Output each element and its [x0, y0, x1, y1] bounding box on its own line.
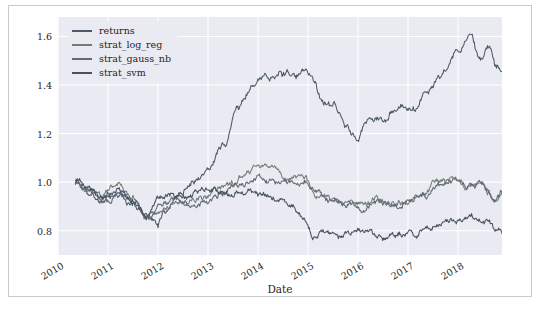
legend-item-label: strat_gauss_nb: [99, 52, 171, 66]
legend-swatch-icon: [72, 44, 92, 46]
legend-item-label: strat_svm: [99, 66, 146, 80]
legend-item-strat_svm: strat_svm: [72, 66, 171, 80]
legend-item-strat_log_reg: strat_log_reg: [72, 38, 171, 52]
chart-legend: returnsstrat_log_regstrat_gauss_nbstrat_…: [68, 21, 177, 83]
legend-item-label: returns: [99, 24, 135, 38]
x-axis-title: Date: [58, 283, 502, 295]
legend-item-returns: returns: [72, 24, 171, 38]
legend-item-label: strat_log_reg: [99, 38, 162, 52]
legend-item-strat_gauss_nb: strat_gauss_nb: [72, 52, 171, 66]
legend-swatch-icon: [72, 30, 92, 32]
legend-swatch-icon: [72, 58, 92, 60]
legend-swatch-icon: [72, 72, 92, 74]
figure-canvas: 1.61.41.21.00.8 201020112012201320142015…: [0, 0, 543, 310]
